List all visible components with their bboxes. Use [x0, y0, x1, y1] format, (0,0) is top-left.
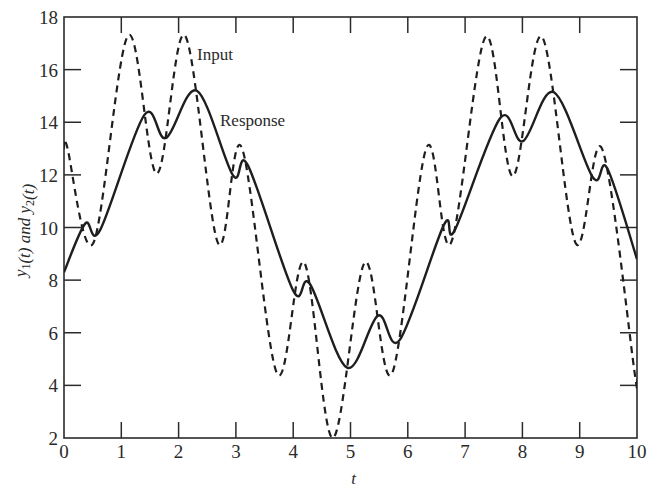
input-annotation: Input: [197, 45, 233, 64]
y-tick-label: 10: [39, 218, 58, 239]
x-tick-label: 10: [628, 441, 647, 462]
x-tick-label: 2: [174, 441, 184, 462]
y-tick-label: 14: [39, 112, 59, 133]
series-input-line: [64, 35, 639, 438]
y-tick-label: 2: [49, 428, 59, 449]
x-tick-label: 6: [403, 441, 413, 462]
y-axis-label: y1(t) and y2(t): [11, 184, 38, 280]
x-tick-label: 4: [288, 441, 298, 462]
y-axis-ticks: 24681012141618: [39, 7, 637, 449]
y-tick-label: 18: [39, 7, 58, 28]
x-tick-label: 1: [117, 441, 127, 462]
y-tick-label: 12: [39, 165, 58, 186]
x-tick-label: 3: [231, 441, 241, 462]
series-response-line: [64, 90, 637, 368]
x-tick-label: 5: [346, 441, 356, 462]
x-tick-label: 8: [518, 441, 528, 462]
x-tick-label: 0: [59, 441, 69, 462]
line-chart: 012345678910 24681012141618 Input Respon…: [0, 0, 661, 493]
response-annotation: Response: [220, 111, 285, 130]
y-tick-label: 16: [39, 60, 58, 81]
series-layer: [64, 35, 639, 438]
y-tick-label: 4: [49, 375, 59, 396]
y-tick-label: 6: [49, 323, 59, 344]
y-tick-label: 8: [49, 270, 59, 291]
x-axis-ticks: 012345678910: [59, 17, 646, 462]
x-tick-label: 9: [575, 441, 585, 462]
x-axis-label: t: [351, 469, 357, 488]
x-tick-label: 7: [460, 441, 470, 462]
